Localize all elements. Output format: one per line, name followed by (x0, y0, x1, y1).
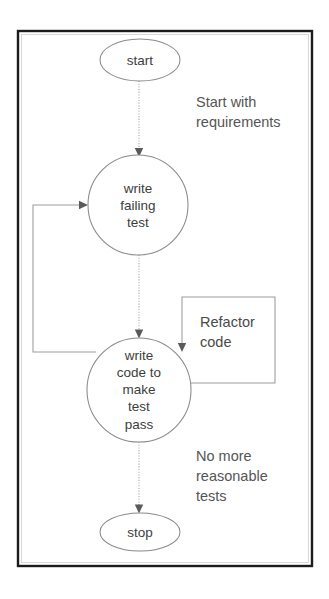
edge-write-code-back-to-write-failing-test (33, 201, 96, 352)
node-start[interactable]: start (100, 39, 180, 81)
write-failing-test-label-line-2: failing (120, 198, 155, 213)
edge-write-failing-test-to-write-code (135, 255, 143, 339)
start-label: start (127, 53, 154, 68)
node-write-code-to-make-test-pass[interactable]: write code to make test pass (87, 338, 191, 442)
no-more-reasonable-tests-line-2: reasonable (196, 468, 268, 484)
box-refactor-code[interactable]: Refactor code (200, 314, 255, 350)
write-failing-test-label-line-3: test (127, 215, 149, 230)
write-code-label-line-2: code to (117, 365, 161, 380)
write-code-label-line-5: pass (125, 417, 154, 432)
flowchart-svg: start write failing test write code to m… (0, 0, 329, 599)
refactor-code-label-line-1: Refactor (200, 314, 255, 330)
no-more-reasonable-tests-line-1: No more (196, 448, 252, 464)
node-write-failing-test[interactable]: write failing test (88, 155, 188, 255)
write-code-label-line-4: test (128, 399, 150, 414)
no-more-reasonable-tests-line-3: tests (196, 488, 227, 504)
edge-start-to-write-failing-test (132, 81, 146, 157)
diagram-frame (18, 31, 312, 566)
annotation-no-more-reasonable-tests: No more reasonable tests (196, 448, 268, 504)
edge-write-code-to-stop (135, 442, 143, 514)
annotation-start-with-requirements: Start with requirements (196, 94, 281, 130)
write-failing-test-label-line-1: write (123, 181, 153, 196)
stop-label: stop (127, 525, 153, 540)
node-stop[interactable]: stop (100, 513, 180, 551)
diagram-canvas: start write failing test write code to m… (0, 0, 329, 599)
write-code-label-line-1: write (124, 348, 154, 363)
start-with-requirements-line-1: Start with (196, 94, 256, 110)
refactor-code-label-line-2: code (200, 334, 231, 350)
write-code-label-line-3: make (122, 382, 155, 397)
start-with-requirements-line-2: requirements (196, 114, 281, 130)
